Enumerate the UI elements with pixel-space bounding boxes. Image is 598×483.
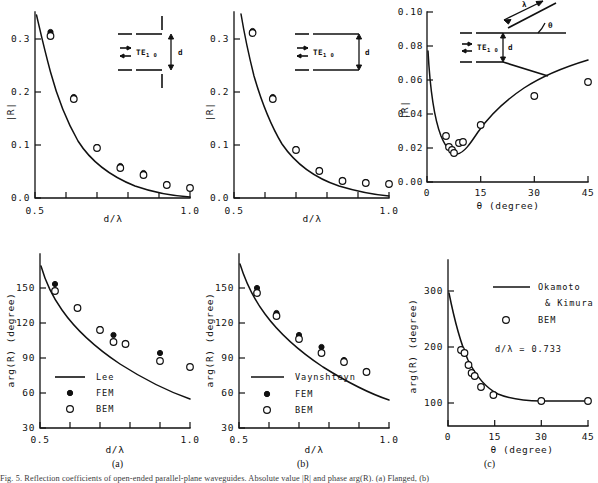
axes-c-magnitude: 0.00 0.02 0.04 0.06 0.08 0.10 0 15 30 45… [398,6,595,211]
x-ticks-c-magnitude [427,176,588,182]
legend-label: BEM [538,315,556,325]
panel-label-c: (c) [484,458,495,469]
chart-a-magnitude-svg: 0.0 0.1 0.2 0.3 0.5 1.0 d/λ |R| d TE1 0 [0,0,200,232]
inset-mode-label: TE1 0 [477,43,498,53]
y-tick-label: 0.10 [398,6,423,17]
panel-b-phase-chart: 30 60 90 120 150 0.5 1.0 d/λ arg(R) (deg… [199,240,399,458]
y-tick-label: 100 [424,397,443,408]
legend-label: FEM [295,389,313,399]
chart-b-magnitude-svg: 0.0 0.1 0.2 0.3 0.5 1.0 d/λ |R| d TE1 0 [199,0,399,232]
x-axis-label: θ (degree) [476,200,539,211]
y-tick-label: 0.3 [210,33,229,44]
y-tick-label: 150 [215,282,234,293]
x-tick-label: 0.5 [225,205,244,216]
x-tick-label: 0.5 [230,434,249,445]
axes-a-magnitude: 0.0 0.1 0.2 0.3 0.5 1.0 d/λ |R| [5,12,199,224]
y-ticks-c-phase [448,291,454,403]
x-tick-label: 45 [582,187,595,198]
panel-a-magnitude-chart: 0.0 0.1 0.2 0.3 0.5 1.0 d/λ |R| d TE1 0 [0,0,200,232]
series-bem-points-b-phase [254,290,370,376]
x-tick-label: 1.0 [181,434,200,445]
panel-label-a: (a) [112,458,123,469]
x-tick-label: 45 [582,431,595,442]
y-tick-label: 200 [424,341,443,352]
x-tick-label: 30 [528,187,541,198]
inset-lambda-label: λ [522,0,527,9]
x-axis-label: d/λ [104,213,123,224]
panel-label-b: (b) [297,458,309,469]
y-axis-label: |R| [5,103,16,122]
series-line-okamoto-c [428,51,588,154]
series-fem-points-b-phase [254,285,369,373]
legend-c-phase: Okamoto & Kimura BEM d/λ = 0.733 [493,282,594,354]
y-tick-label: 120 [215,317,234,328]
legend-label-second-line: & Kimura [545,298,594,308]
chart-c-phase-svg: 100 200 300 0 15 30 45 θ (degree) arg(R)… [398,240,598,458]
x-ticks-c-phase [448,420,588,426]
series-bem-points-c [443,79,592,157]
y-tick-label: 60 [221,387,234,398]
inset-c-inclined-flange-waveguide: d TE1 0 θ λ [460,0,566,76]
series-fem-points-b [250,28,368,184]
x-axis-label: θ (degree) [490,444,553,455]
legend-label: BEM [96,404,114,414]
inset-dim-label: d [178,48,183,57]
legend-a-phase: Lee FEM BEM [55,372,114,414]
series-line-lee-a-phase [41,266,190,399]
y-axis-label: arg(R) (degree) [407,299,418,394]
chart-c-magnitude-svg: 0.00 0.02 0.04 0.06 0.08 0.10 0 15 30 45… [398,0,598,232]
series-bem-points-c-phase [458,347,592,405]
y-tick-label: 0.0 [11,192,30,203]
x-tick-label: 15 [474,187,487,198]
chart-a-phase-svg: 30 60 90 120 150 0.5 1.0 d/λ arg(R) (deg… [0,240,200,458]
x-tick-label: 1.0 [181,205,200,216]
y-tick-label: 90 [221,352,234,363]
y-tick-label: 30 [221,422,234,433]
x-ticks-a-magnitude [35,192,190,198]
y-tick-label: 300 [424,285,443,296]
inset-mode-label: TE1 0 [313,48,334,58]
series-line-lee-a [37,15,191,197]
chart-b-phase-svg: 30 60 90 120 150 0.5 1.0 d/λ arg(R) (deg… [199,240,399,458]
y-axis-label: arg(R) (degree) [5,293,16,388]
legend-label: Vaynshteyn [295,372,356,382]
x-tick-label: 0 [424,187,430,198]
x-axis-label: d/λ [305,444,324,455]
inset-dim-label: d [508,43,513,52]
y-ticks-b-phase [239,288,245,428]
y-tick-label: 0.02 [398,142,423,153]
legend-label: Lee [96,372,114,382]
panel-c-magnitude-chart: 0.00 0.02 0.04 0.06 0.08 0.10 0 15 30 45… [398,0,598,232]
y-tick-label: 90 [22,352,35,363]
panel-c-phase-chart: 100 200 300 0 15 30 45 θ (degree) arg(R)… [398,240,598,458]
y-tick-label: 30 [22,422,35,433]
y-tick-label: 0.3 [11,33,30,44]
series-bem-points-a-phase [52,288,194,371]
inset-mode-label: TE1 0 [136,48,157,58]
x-axis-label: d/λ [303,213,322,224]
legend-label: BEM [295,405,313,415]
x-tick-label: 30 [535,431,548,442]
axes-a-phase: 30 60 90 120 150 0.5 1.0 d/λ arg(R) (deg… [5,254,199,455]
x-ticks-b-phase [239,422,389,428]
y-axis-label: arg(R) (degree) [204,293,215,388]
y-tick-label: 150 [16,282,35,293]
legend-label: FEM [96,388,114,398]
x-ticks-a-phase [40,422,190,428]
y-tick-label: 0.2 [11,86,30,97]
inset-b-unflanged-waveguide: d TE1 0 [295,34,370,70]
axes-b-magnitude: 0.0 0.1 0.2 0.3 0.5 1.0 d/λ |R| [204,12,398,224]
inset-theta-label: θ [548,21,553,30]
series-line-vaynshteyn-b [241,14,389,196]
legend-label: Okamoto [538,282,581,292]
y-ticks-a-phase [40,288,46,428]
x-tick-label: 1.0 [380,205,399,216]
y-tick-label: 0.1 [11,139,30,150]
y-tick-label: 0.2 [210,86,229,97]
y-axis-label: |R| [204,103,215,122]
x-axis-label: d/λ [106,444,125,455]
y-tick-label: 0.00 [398,176,423,187]
y-axis-label: |R| [399,101,410,120]
y-ticks-b-magnitude [234,39,240,198]
y-tick-label: 60 [22,387,35,398]
